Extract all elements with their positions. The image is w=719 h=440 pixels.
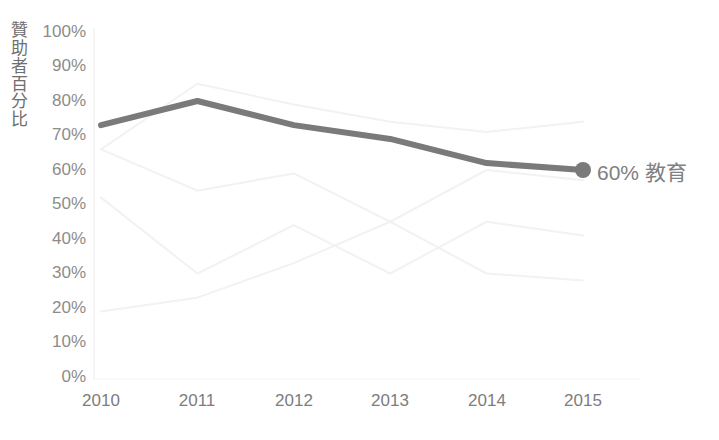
- faded-series-line: [101, 84, 583, 150]
- faded-series-line: [101, 149, 583, 221]
- highlight-series-group[interactable]: [101, 101, 591, 178]
- plot-area: [0, 0, 719, 440]
- series-end-marker[interactable]: [575, 162, 591, 178]
- highlight-series-line[interactable]: [101, 101, 583, 170]
- faded-series-line: [101, 222, 583, 312]
- faded-series-line: [101, 198, 583, 274]
- series-end-label: 60% 教育: [597, 156, 687, 186]
- axis-lines: [94, 28, 640, 379]
- line-chart: 贊助者百分比 100% 90% 80% 70% 60% 50% 40% 30% …: [0, 0, 719, 440]
- faded-series-group: [101, 84, 583, 312]
